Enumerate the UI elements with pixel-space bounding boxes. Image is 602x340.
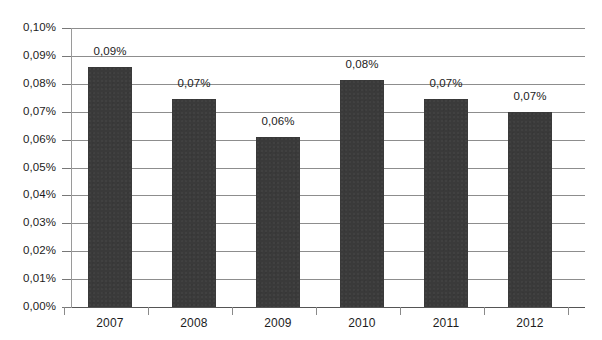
x-axis-tick bbox=[232, 307, 233, 315]
y-axis-label: 0,00% bbox=[4, 301, 56, 313]
x-axis-label: 2012 bbox=[490, 316, 570, 330]
y-axis-tick bbox=[62, 279, 71, 280]
bar-value-label: 0,07% bbox=[406, 77, 486, 89]
x-axis-label: 2009 bbox=[238, 316, 318, 330]
y-axis-tick bbox=[62, 168, 71, 169]
y-axis-tick bbox=[62, 140, 71, 141]
bar-value-label: 0,07% bbox=[490, 90, 570, 102]
gridline bbox=[71, 28, 585, 29]
y-axis-label: 0,04% bbox=[4, 189, 56, 201]
bar bbox=[256, 137, 300, 307]
y-axis-label: 0,08% bbox=[4, 78, 56, 90]
x-axis-label: 2008 bbox=[154, 316, 234, 330]
y-axis-label: 0,02% bbox=[4, 245, 56, 257]
y-axis-tick bbox=[62, 251, 71, 252]
gridline bbox=[71, 84, 585, 85]
x-axis-tick bbox=[484, 307, 485, 315]
bar-value-label: 0,07% bbox=[154, 77, 234, 89]
y-axis-label: 0,05% bbox=[4, 162, 56, 174]
x-axis-label: 2011 bbox=[406, 316, 486, 330]
x-axis-tick bbox=[568, 307, 569, 315]
bar bbox=[88, 67, 132, 307]
x-axis-tick bbox=[148, 307, 149, 315]
y-axis-label: 0,06% bbox=[4, 134, 56, 146]
bar-value-label: 0,06% bbox=[238, 115, 318, 127]
bar bbox=[508, 112, 552, 307]
y-axis-line bbox=[71, 28, 72, 308]
x-axis-label: 2010 bbox=[322, 316, 402, 330]
y-axis-label: 0,01% bbox=[4, 273, 56, 285]
bar-chart: 0,00%0,01%0,02%0,03%0,04%0,05%0,06%0,07%… bbox=[0, 0, 602, 340]
y-axis-tick bbox=[62, 195, 71, 196]
bar bbox=[340, 80, 384, 307]
x-axis-tick bbox=[400, 307, 401, 315]
y-axis-tick bbox=[62, 28, 71, 29]
y-axis-label: 0,07% bbox=[4, 106, 56, 118]
bar-value-label: 0,09% bbox=[70, 45, 150, 57]
x-axis-label: 2007 bbox=[70, 316, 150, 330]
bar-value-label: 0,08% bbox=[322, 58, 402, 70]
y-axis-tick bbox=[62, 112, 71, 113]
x-axis-tick bbox=[316, 307, 317, 315]
y-axis-tick bbox=[62, 84, 71, 85]
y-axis-label: 0,09% bbox=[4, 50, 56, 62]
bar bbox=[424, 99, 468, 307]
x-axis-tick bbox=[64, 307, 65, 315]
y-axis-label: 0,10% bbox=[4, 22, 56, 34]
y-axis-tick bbox=[62, 223, 71, 224]
y-axis-label: 0,03% bbox=[4, 217, 56, 229]
bar bbox=[172, 99, 216, 307]
